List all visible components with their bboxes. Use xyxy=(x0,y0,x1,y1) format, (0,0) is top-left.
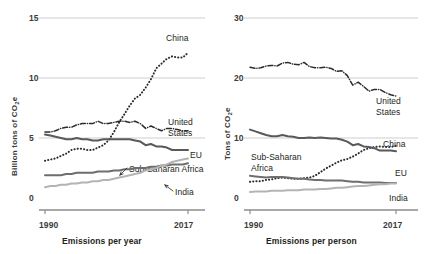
series-line-united-states xyxy=(45,121,188,132)
chart-panel-emissions-per-year: Billion tons of CO2e 15 10 5 0 1990 2017… xyxy=(0,0,212,254)
series-line-india xyxy=(250,184,396,192)
chart-panel-emissions-per-person: Tons of CO2e 30 20 10 0 1990 2017 Emissi… xyxy=(213,0,425,254)
series-line-eu xyxy=(250,130,396,152)
series-line-eu xyxy=(45,134,188,150)
series-line-india xyxy=(45,158,188,187)
series-line-china xyxy=(45,53,188,161)
emissions-figure: Billion tons of CO2e 15 10 5 0 1990 2017… xyxy=(0,0,425,254)
plot-area-right xyxy=(213,0,425,254)
plot-area-left xyxy=(0,0,212,254)
series-line-united-states xyxy=(250,62,396,96)
